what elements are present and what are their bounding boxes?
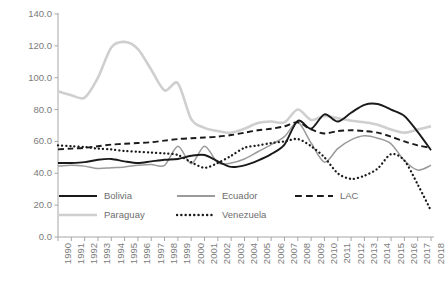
legend-swatch-lac [294,191,334,201]
legend-row: ParaguayVenezuela [58,205,388,224]
legend-item-bolivia[interactable]: Bolivia [58,190,132,201]
x-axis-tick-label: 2007 [289,243,299,264]
x-axis-tick-label: 1990 [63,243,73,264]
x-axis-tick-label: 2017 [422,243,432,264]
x-axis-tick-label: 2010 [329,243,339,264]
x-axis-tick-label: 2018 [436,243,446,264]
legend-item-lac[interactable]: LAC [294,190,358,201]
line-chart: 140.0120.0100.080.060.040.020.00.0 19901… [0,0,448,284]
legend-item-paraguay[interactable]: Paraguay [58,209,145,220]
legend-label-ecuador: Ecuador [222,190,257,201]
legend-label-paraguay: Paraguay [104,209,145,220]
x-axis-tick-label: 2014 [382,243,392,264]
x-axis-tick-label: 1997 [156,243,166,264]
x-axis-tick-label: 2005 [262,243,272,264]
x-axis-tick-label: 1993 [102,243,112,264]
series-line-bolivia [58,104,431,167]
x-axis-tick-label: 1995 [129,243,139,264]
legend-label-lac: LAC [340,190,358,201]
legend-swatch-bolivia [58,191,98,201]
legend-swatch-ecuador [176,191,216,201]
x-axis-tick-label: 2006 [276,243,286,264]
x-axis-tick-label: 2001 [209,243,219,264]
x-axis-tick-label: 1996 [142,243,152,264]
x-axis-tick-label: 2015 [396,243,406,264]
x-axis-tick-label: 1992 [89,243,99,264]
x-axis-tick-label: 2008 [302,243,312,264]
legend-swatch-venezuela [176,210,216,220]
x-axis-tick-label: 1998 [169,243,179,264]
x-axis-tick-label: 2003 [236,243,246,264]
legend-item-venezuela[interactable]: Venezuela [176,209,266,220]
legend-label-venezuela: Venezuela [222,209,266,220]
x-axis-tick-label: 1999 [182,243,192,264]
x-axis-tick-label: 2012 [356,243,366,264]
x-axis-tick-label: 2011 [342,243,352,263]
x-axis-tick-label: 2000 [196,243,206,264]
x-axis-tick-label: 2002 [222,243,232,264]
series-line-paraguay [58,42,431,133]
x-axis-tick-label: 2013 [369,243,379,264]
legend-label-bolivia: Bolivia [104,190,132,201]
legend-row: BoliviaEcuadorLAC [58,186,388,205]
x-axis-tick-label: 1994 [116,243,126,264]
x-axis-tick-label: 1991 [76,243,86,264]
x-axis-tick-label: 2004 [249,243,259,264]
series-line-lac [58,122,431,149]
x-axis-tick-label: 2016 [409,243,419,264]
plot-area [0,0,448,284]
legend-item-ecuador[interactable]: Ecuador [176,190,257,201]
chart-legend: BoliviaEcuadorLACParaguayVenezuela [58,186,388,224]
x-axis-tick-label: 2009 [316,243,326,264]
legend-swatch-paraguay [58,210,98,220]
